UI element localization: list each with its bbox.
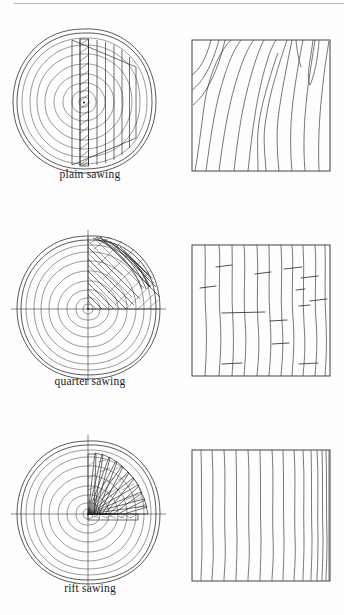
figure-rift-sawing: rift sawing bbox=[0, 410, 344, 615]
straight-grain-lines bbox=[205, 245, 326, 376]
figure-quarter-sawing: quarter sawing bbox=[0, 205, 344, 410]
caption-plain-sawing: plain sawing bbox=[0, 168, 180, 180]
log-cross-section-quarter bbox=[10, 227, 170, 377]
pith-point bbox=[83, 101, 85, 103]
log-cross-section-rift bbox=[10, 432, 170, 582]
board-face-quarter bbox=[186, 238, 336, 383]
growth-rings-quarter bbox=[17, 236, 160, 379]
cathedral-grain-lines bbox=[192, 40, 329, 171]
board-face-plain bbox=[186, 33, 336, 178]
sawing-methods-figure: plain sawing bbox=[0, 0, 344, 615]
caption-quarter-sawing: quarter sawing bbox=[0, 375, 180, 387]
growth-rings-plain bbox=[13, 29, 156, 173]
tight-straight-grain-lines bbox=[201, 450, 329, 581]
figure-plain-sawing: plain sawing bbox=[0, 0, 344, 205]
plain-saw-cuts bbox=[72, 39, 136, 166]
log-cross-section-plain bbox=[10, 22, 170, 172]
ray-fleck-marks bbox=[200, 265, 327, 364]
board-face-rift bbox=[186, 443, 336, 588]
caption-rift-sawing: rift sawing bbox=[0, 582, 180, 594]
